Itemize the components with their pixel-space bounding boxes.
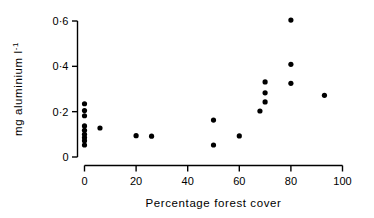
y-axis-title-main: mg aluminium l [12,50,24,136]
y-tick-label: 0 [62,151,68,163]
plot-canvas: 00·20·40·6 020406080100 Percentage fores… [0,0,374,218]
data-points-layer [82,17,327,147]
y-axis-title-superscript: -1 [11,42,20,50]
data-point [322,93,327,98]
x-tick-label: 100 [333,175,351,187]
data-point [288,62,293,67]
y-axis: 00·20·40·6 [53,15,78,163]
x-tick-label: 20 [130,175,142,187]
data-point [263,79,268,84]
data-point [237,133,242,138]
data-point [263,90,268,95]
y-axis-title: mg aluminium l-1 [11,42,24,136]
x-tick-label: 60 [233,175,245,187]
data-point [288,17,293,22]
data-point [263,99,268,104]
x-tick-label: 80 [285,175,297,187]
data-point [211,117,216,122]
data-point [82,108,87,113]
x-axis: 020406080100 [81,166,351,187]
scatter-plot-figure: 00·20·40·6 020406080100 Percentage fores… [0,0,374,218]
data-point [288,81,293,86]
x-tick-label: 40 [182,175,194,187]
x-tick-label: 0 [81,175,87,187]
data-point [211,142,216,147]
data-point [257,108,262,113]
data-point [82,142,87,147]
x-axis-title: Percentage forest cover [146,197,282,209]
data-point [82,113,87,118]
y-tick-label: 0·4 [53,60,69,72]
y-tick-label: 0·6 [53,15,69,27]
data-point [97,125,102,130]
y-tick-label: 0·2 [53,106,69,118]
data-point [82,101,87,106]
data-point [134,133,139,138]
data-point [149,134,154,139]
